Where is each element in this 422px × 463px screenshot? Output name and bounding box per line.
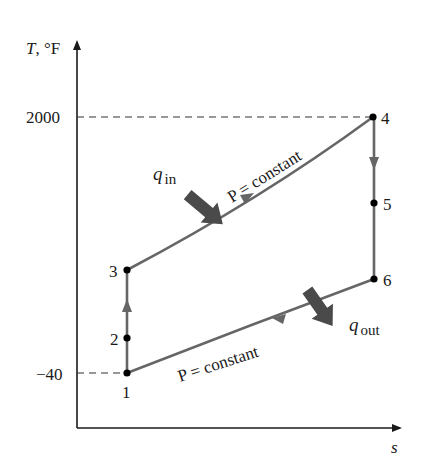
x-axis-label-s: s <box>391 438 398 457</box>
q-out-label: qout <box>349 314 381 338</box>
point-5 <box>370 199 377 206</box>
ts-diagram: T, °F s 2000 −40 qin qout P = const <box>0 0 422 463</box>
point-label-6: 6 <box>383 271 392 290</box>
point-label-2: 2 <box>110 330 119 349</box>
y-tick-2000: 2000 <box>26 108 60 127</box>
upper-process-label: P = constant <box>224 146 305 207</box>
point-3 <box>123 266 130 273</box>
point-label-5: 5 <box>383 195 392 214</box>
q-out-arrow <box>297 283 344 334</box>
point-4 <box>369 113 376 120</box>
arrow-up-1-3 <box>122 299 132 312</box>
point-2 <box>123 334 130 341</box>
point-6 <box>370 275 377 282</box>
process-lines <box>127 117 374 373</box>
point-label-4: 4 <box>381 109 390 128</box>
point-1 <box>123 369 130 376</box>
y-axis-label: T, °F <box>26 39 60 58</box>
y-tick-minus40: −40 <box>36 365 63 384</box>
q-in-label: qin <box>153 163 177 187</box>
arrow-down-4-5 <box>369 157 379 170</box>
point-label-3: 3 <box>109 262 118 281</box>
point-label-1: 1 <box>122 383 131 402</box>
state-points <box>123 113 377 376</box>
